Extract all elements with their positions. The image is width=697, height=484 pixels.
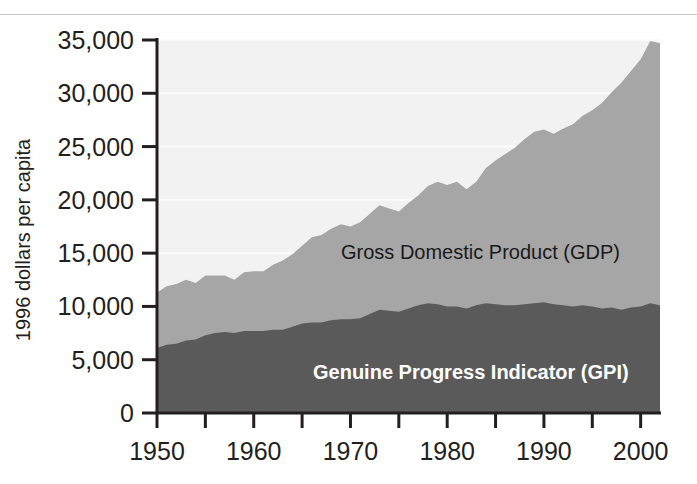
y-axis-tick-label: 25,000 [58,133,134,161]
x-axis-tick-label: 2000 [613,437,669,465]
gpi-series-label: Genuine Progress Indicator (GPI) [313,361,629,383]
y-axis-tick-label: 5,000 [71,346,134,374]
x-axis-tick-label: 1980 [419,437,475,465]
chart-figure: 05,00010,00015,00020,00025,00030,00035,0… [0,0,697,484]
y-axis-tick-label: 15,000 [58,239,134,267]
y-axis: 05,00010,00015,00020,00025,00030,00035,0… [58,26,157,427]
y-axis-tick-label: 10,000 [58,292,134,320]
x-axis-tick-label: 1970 [323,437,379,465]
y-axis-tick-label: 35,000 [58,26,134,54]
y-axis-tick-label: 0 [120,399,134,427]
gdp-series-label: Gross Domestic Product (GDP) [341,241,620,263]
x-axis: 195019601970198019902000 [129,413,668,465]
x-axis-tick-label: 1960 [226,437,282,465]
y-axis-title: 1996 dollars per capita [12,138,34,341]
y-axis-tick-label: 30,000 [58,79,134,107]
x-axis-tick-label: 1990 [516,437,572,465]
stacked-area-chart: 05,00010,00015,00020,00025,00030,00035,0… [0,0,697,484]
y-axis-tick-label: 20,000 [58,186,134,214]
x-axis-tick-label: 1950 [129,437,185,465]
